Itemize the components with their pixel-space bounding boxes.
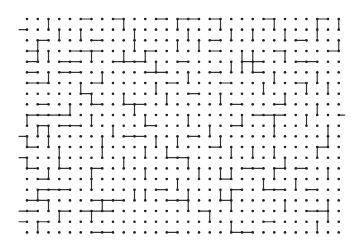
grid-dot xyxy=(230,103,233,106)
grid-dot xyxy=(327,231,330,234)
grid-dot xyxy=(144,210,147,213)
grid-dot xyxy=(273,135,276,138)
grid-dot xyxy=(36,39,39,42)
grid-dot xyxy=(251,82,254,85)
grid-dot xyxy=(133,146,136,149)
grid-dot xyxy=(294,178,297,181)
grid-dot xyxy=(241,114,244,117)
grid-dot xyxy=(251,92,254,95)
grid-dot xyxy=(284,39,287,42)
grid-dot xyxy=(230,82,233,85)
grid-dot xyxy=(79,167,82,170)
grid-dot xyxy=(112,156,115,159)
grid-dot xyxy=(58,50,61,53)
grid-dot xyxy=(155,167,158,170)
grid-dot xyxy=(144,220,147,223)
grid-dot xyxy=(305,82,308,85)
grid-dot xyxy=(69,60,72,63)
grid-dot xyxy=(112,60,115,63)
grid-dot xyxy=(294,124,297,127)
grid-dot xyxy=(101,210,104,213)
grid-dot xyxy=(133,135,136,138)
grid-dot xyxy=(187,50,190,53)
grid-dot xyxy=(305,210,308,213)
grid-dot xyxy=(273,167,276,170)
grid-dot xyxy=(251,28,254,31)
grid-dot xyxy=(273,188,276,191)
grid-dot xyxy=(316,39,319,42)
grid-dot xyxy=(36,50,39,53)
grid-dot xyxy=(90,188,93,191)
grid-dot xyxy=(327,124,330,127)
grid-dot xyxy=(47,28,50,31)
grid-dot xyxy=(187,135,190,138)
grid-dot xyxy=(26,60,29,63)
grid-dot xyxy=(165,39,168,42)
grid-dot xyxy=(316,199,319,202)
grid-dot xyxy=(316,124,319,127)
grid-dot xyxy=(262,210,265,213)
grid-dot xyxy=(144,135,147,138)
grid-dot xyxy=(327,28,330,31)
grid-dot xyxy=(187,124,190,127)
grid-dot xyxy=(155,92,158,95)
grid-dot xyxy=(208,39,211,42)
grid-dot xyxy=(262,82,265,85)
grid-dot xyxy=(219,210,222,213)
grid-dot xyxy=(79,82,82,85)
grid-dot xyxy=(230,146,233,149)
grid-dot xyxy=(112,167,115,170)
grid-dot xyxy=(241,135,244,138)
grid-dot xyxy=(294,18,297,21)
grid-dot xyxy=(219,146,222,149)
grid-dot xyxy=(112,220,115,223)
grid-dot xyxy=(219,220,222,223)
grid-dot xyxy=(294,220,297,223)
grid-dot xyxy=(90,178,93,181)
grid-dot xyxy=(230,124,233,127)
grid-dot xyxy=(47,178,50,181)
grid-dot xyxy=(101,71,104,74)
grid-dot xyxy=(155,210,158,213)
grid-dot xyxy=(69,50,72,53)
grid-dot xyxy=(47,124,50,127)
grid-dot xyxy=(36,188,39,191)
grid-dot xyxy=(262,167,265,170)
grid-dot xyxy=(133,220,136,223)
grid-dot xyxy=(198,220,201,223)
grid-dot xyxy=(294,92,297,95)
grid-dot xyxy=(90,71,93,74)
grid-dot xyxy=(26,82,29,85)
grid-dot xyxy=(133,167,136,170)
grid-dot xyxy=(305,39,308,42)
grid-dot xyxy=(241,60,244,63)
grid-dot xyxy=(176,60,179,63)
grid-dot xyxy=(198,124,201,127)
grid-dot xyxy=(58,188,61,191)
grid-dot xyxy=(90,18,93,21)
grid-dot xyxy=(26,146,29,149)
grid-dot xyxy=(122,156,125,159)
grid-dot xyxy=(47,167,50,170)
grid-dot xyxy=(337,220,340,223)
grid-dot xyxy=(294,50,297,53)
grid-dot xyxy=(337,156,340,159)
grid-dot xyxy=(316,210,319,213)
grid-dot xyxy=(241,71,244,74)
grid-dot xyxy=(101,50,104,53)
grid-dot xyxy=(101,103,104,106)
grid-dot xyxy=(230,156,233,159)
grid-dot xyxy=(26,199,29,202)
grid-dot xyxy=(208,156,211,159)
grid-dot xyxy=(337,60,340,63)
grid-dot xyxy=(58,71,61,74)
grid-dot xyxy=(208,60,211,63)
grid-dot xyxy=(79,220,82,223)
grid-dot xyxy=(219,28,222,31)
grid-dot xyxy=(337,18,340,21)
grid-dot xyxy=(262,39,265,42)
grid-dot xyxy=(79,188,82,191)
grid-dot xyxy=(251,103,254,106)
grid-dot xyxy=(69,114,72,117)
grid-dot xyxy=(122,210,125,213)
